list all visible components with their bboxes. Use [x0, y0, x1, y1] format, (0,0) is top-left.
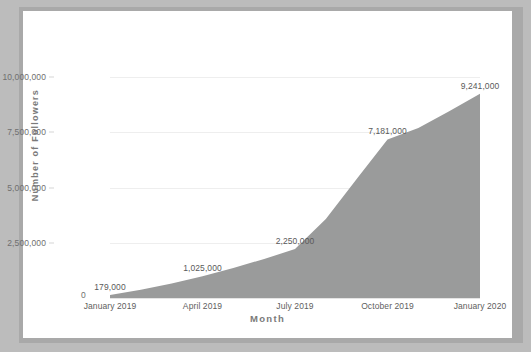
y-axis-ticks: 10,000,0007,500,0005,000,0002,500,000	[23, 11, 110, 301]
data-point-label: 2,250,000	[276, 236, 315, 246]
area-series	[110, 68, 480, 299]
y-axis-tick-label: 7,500,000	[7, 127, 46, 137]
x-axis-tick-label: January 2020	[454, 301, 507, 311]
clipped-heading-text	[86, 0, 286, 3]
y-axis-tick-mark	[49, 187, 54, 188]
x-axis-tick-label: April 2019	[183, 301, 222, 311]
x-axis-line	[110, 298, 480, 299]
data-point-label: 7,181,000	[368, 126, 407, 136]
y-axis-zero-label: 0	[81, 290, 86, 300]
y-axis-tick-mark	[49, 76, 54, 77]
x-axis-tick-label: January 2019	[84, 301, 137, 311]
y-axis-tick-label: 10,000,000	[2, 72, 46, 82]
data-point-label: 9,241,000	[461, 81, 500, 91]
y-axis-tick-mark	[49, 132, 54, 133]
x-axis-tick-label: July 2019	[276, 301, 313, 311]
plot-area	[110, 68, 480, 299]
y-axis-tick-mark	[49, 243, 54, 244]
data-point-label: 1,025,000	[183, 263, 222, 273]
x-axis-title: Month	[23, 313, 512, 324]
y-axis-tick-label: 2,500,000	[7, 238, 46, 248]
y-axis-tick-label: 5,000,000	[7, 183, 46, 193]
data-point-label: 179,000	[94, 282, 125, 292]
area-fill	[110, 94, 480, 299]
area-chart: Number of Followers 10,000,0007,500,0005…	[23, 11, 512, 338]
page-background: Number of Followers 10,000,0007,500,0005…	[0, 0, 531, 352]
x-axis-tick-label: October 2019	[361, 301, 414, 311]
